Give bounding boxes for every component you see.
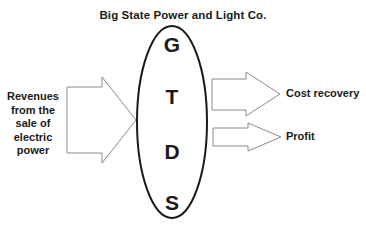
service-letter: S [152, 192, 192, 214]
revenue-label-line: Revenues [2, 90, 64, 104]
revenue-label-line: from the [2, 104, 64, 118]
cost-recovery-label: Cost recovery [286, 87, 359, 99]
cost-recovery-arrow [212, 72, 280, 116]
profit-arrow [213, 123, 281, 151]
input-arrow [67, 77, 136, 163]
distribution-letter: D [152, 141, 192, 163]
revenue-label-line: power [2, 144, 64, 158]
revenue-label-line: sale of [2, 117, 64, 131]
generation-letter: G [152, 34, 192, 56]
transmission-letter: T [152, 86, 192, 108]
revenue-label: Revenues from the sale of electric power [2, 90, 64, 158]
profit-label: Profit [286, 130, 315, 142]
revenue-label-line: electric [2, 131, 64, 145]
